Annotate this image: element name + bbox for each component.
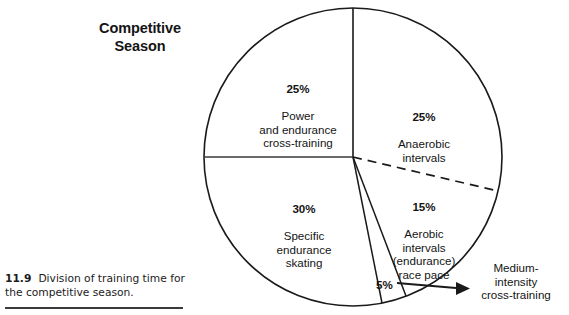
figure-caption-text: Division of training time for the compet… [5, 272, 185, 299]
caption-divider [5, 307, 183, 309]
slice-percent-medium: 5% [376, 278, 410, 292]
slice-text-anaerobic: Anaerobic intervals [372, 137, 476, 164]
callout-label-medium-intensity-cross-training: Medium- intensity cross-training [466, 261, 566, 302]
slice-text-specific: Specific endurance skating [250, 229, 358, 270]
slice-percent-power: 25% [240, 82, 356, 96]
slice-label-medium-intensity: 5% [376, 264, 410, 305]
slice-percent-aerobic: 15% [374, 200, 474, 214]
slice-label-anaerobic-intervals: 25% Anaerobic intervals [372, 96, 476, 178]
slice-percent-specific: 30% [250, 202, 358, 216]
slice-label-specific-endurance-skating: 30% Specific endurance skating [250, 188, 358, 284]
figure-root: Competitive Season 25% Power and enduran… [0, 0, 569, 315]
chart-title: Competitive Season [42, 20, 238, 55]
figure-caption: 11.9Division of training time for the co… [5, 272, 203, 300]
slice-percent-anaerobic: 25% [372, 110, 476, 124]
figure-caption-number: 11.9 [5, 272, 31, 285]
slice-text-power: Power and endurance cross-training [240, 109, 356, 150]
slice-label-power-endurance-cross-training: 25% Power and endurance cross-training [240, 68, 356, 164]
